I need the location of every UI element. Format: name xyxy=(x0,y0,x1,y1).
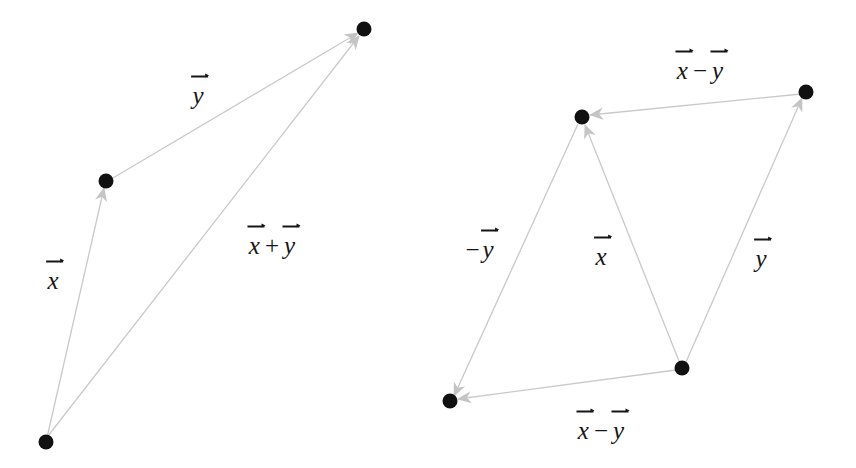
panel-vector-addition xyxy=(39,22,372,450)
label-letter: y xyxy=(755,246,766,271)
label-vector-x-right: x xyxy=(594,244,607,269)
label-letter: y xyxy=(613,418,624,443)
point-top-right-right-panel xyxy=(799,85,814,100)
label-letter: y xyxy=(712,58,723,83)
label-vector-negative-y: −y xyxy=(465,237,494,262)
point-origin-right-panel xyxy=(675,361,690,376)
label-vector-x-minus-y-top: x−y xyxy=(676,58,724,83)
label-letter: y xyxy=(284,233,295,258)
label-letter: x xyxy=(595,244,606,269)
point-tip-left xyxy=(357,22,372,37)
diagram-canvas xyxy=(0,0,856,468)
label-letter: y xyxy=(192,83,203,108)
label-letter: x xyxy=(249,233,260,258)
minus-operator: − xyxy=(590,418,612,443)
arrow-y xyxy=(113,33,358,178)
label-letter: x xyxy=(578,418,589,443)
label-vector-y-left: y xyxy=(191,83,204,108)
label-vector-y-right: y xyxy=(754,246,767,271)
label-letter: x xyxy=(47,268,58,293)
vector-diagram-figure: x y x+y x−y −y x y x−y xyxy=(0,0,856,468)
arrow-x xyxy=(46,188,104,442)
point-mid-left xyxy=(99,174,114,189)
point-top-left-right-panel xyxy=(575,110,590,125)
point-origin-left xyxy=(39,435,54,450)
point-bottom-left-right-panel xyxy=(443,394,458,409)
label-vector-x-minus-y-bottom: x−y xyxy=(577,418,625,443)
minus-operator: − xyxy=(689,58,711,83)
label-letter: x xyxy=(677,58,688,83)
label-vector-x-left: x xyxy=(46,268,59,293)
minus-operator: − xyxy=(465,237,481,262)
label-vector-x-plus-y: x+y xyxy=(248,233,296,258)
arrow-y-right xyxy=(686,98,802,362)
plus-operator: + xyxy=(261,233,283,258)
arrow-x-minus-y-bottom xyxy=(458,370,676,399)
arrow-x-minus-y-top xyxy=(590,94,801,115)
label-letter: y xyxy=(483,237,494,262)
